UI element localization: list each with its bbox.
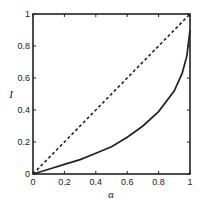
y-tick-label: 0.2 [17, 137, 30, 147]
y-tick-label: 0 [25, 169, 30, 179]
line-chart: 00.20.40.60.81 00.20.40.60.81 α I [0, 0, 201, 203]
x-tick-label: 0.6 [121, 177, 134, 187]
y-tick-label: 0.8 [17, 41, 30, 51]
x-tick-label: 0 [30, 177, 35, 187]
y-tick-label: 0.6 [17, 73, 30, 83]
y-axis-label: I [8, 88, 14, 100]
x-tick-label: 1 [187, 177, 192, 187]
y-tick-label: 0.4 [17, 105, 30, 115]
solid-curve-line [33, 30, 190, 174]
y-tick-labels: 00.20.40.60.81 [17, 9, 30, 179]
x-tick-labels: 00.20.40.60.81 [30, 177, 192, 187]
x-tick-label: 0.8 [152, 177, 165, 187]
x-axis-label: α [108, 188, 114, 200]
x-tick-label: 0.4 [90, 177, 103, 187]
dashed-diagonal-line [33, 14, 190, 174]
y-tick-label: 1 [25, 9, 30, 19]
x-tick-label: 0.2 [58, 177, 71, 187]
